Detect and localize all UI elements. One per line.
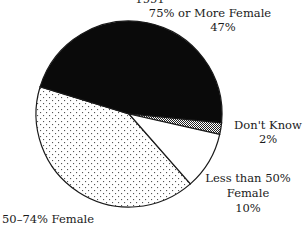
label-less-than-50-pct: 10% xyxy=(235,201,261,215)
label-dont-know: Don't Know xyxy=(234,118,302,132)
pie-chart: 1991 75% or More Female 47% Don't Know 2… xyxy=(0,0,307,230)
label-less-than-50: Less than 50% xyxy=(205,171,290,185)
label-dont-know-pct: 2% xyxy=(259,132,277,146)
label-50-74-female: 50–74% Female xyxy=(2,212,94,226)
label-less-than-50-female: Female xyxy=(227,186,270,200)
label-75-or-more-female-pct: 47% xyxy=(210,20,236,34)
label-75-or-more-female: 75% or More Female xyxy=(149,6,272,20)
